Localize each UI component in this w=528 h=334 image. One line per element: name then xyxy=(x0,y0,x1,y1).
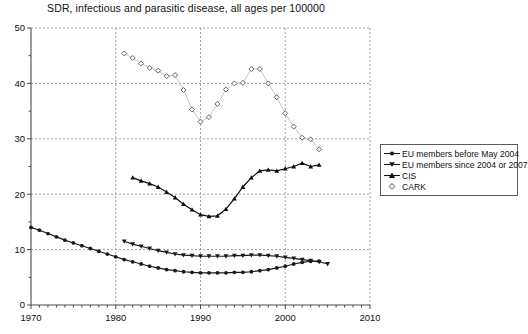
svg-text:20: 20 xyxy=(14,189,25,200)
svg-text:1980: 1980 xyxy=(105,312,126,323)
svg-text:50: 50 xyxy=(14,22,25,33)
legend-marker-diamond-icon xyxy=(383,181,401,192)
legend-label: EU members since 2004 or 2007 xyxy=(401,160,528,170)
svg-text:40: 40 xyxy=(14,78,25,89)
legend-item-cis[interactable]: CIS xyxy=(383,170,514,181)
legend-item-cark[interactable]: CARK xyxy=(383,181,514,192)
legend-item-eu-before-2004[interactable]: EU members before May 2004 xyxy=(383,148,514,159)
series-cark xyxy=(122,51,322,152)
svg-text:2010: 2010 xyxy=(359,312,380,323)
legend-label: EU members before May 2004 xyxy=(401,149,519,159)
series-eu-members-since-2004-or-2007 xyxy=(122,239,330,266)
series-eu-members-before-may-2004 xyxy=(29,226,321,275)
legend-marker-triangle-down-icon xyxy=(383,159,401,170)
series-cis xyxy=(130,161,321,218)
legend-label: CARK xyxy=(401,182,426,192)
svg-text:0: 0 xyxy=(20,299,25,310)
chart-legend: EU members before May 2004 EU members si… xyxy=(380,144,518,196)
svg-text:10: 10 xyxy=(14,244,25,255)
plot-area: 0102030405019701980199020002010 xyxy=(0,0,380,334)
chart-svg: 0102030405019701980199020002010 xyxy=(0,0,380,334)
svg-text:1990: 1990 xyxy=(190,312,211,323)
svg-text:30: 30 xyxy=(14,133,25,144)
legend-label: CIS xyxy=(401,171,416,181)
svg-text:2000: 2000 xyxy=(275,312,296,323)
legend-item-eu-since-2004[interactable]: EU members since 2004 or 2007 xyxy=(383,159,514,170)
legend-marker-triangle-up-icon xyxy=(383,170,401,181)
svg-text:1970: 1970 xyxy=(20,312,41,323)
legend-marker-circle-icon xyxy=(383,148,401,159)
